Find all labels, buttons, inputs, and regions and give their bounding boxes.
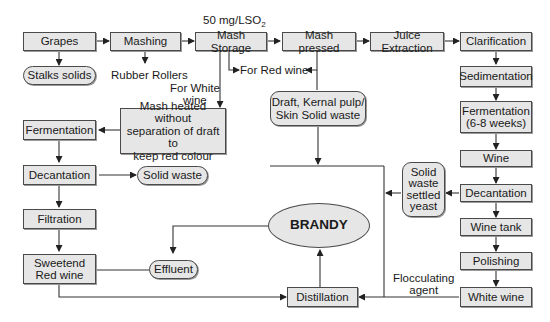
node-label: Mash Storage [196,29,266,54]
node-label: Filtration [37,213,81,226]
node-label: Fermentation [26,124,94,137]
node-solid-waste-yeast: Solidwastesettledyeast [402,162,445,217]
node-white-wine: White wine [460,287,532,307]
node-mashing: Mashing [110,32,181,51]
node-label: Solid waste [143,169,202,182]
node-label: Fermentation [462,105,530,118]
node-label: Mashing [124,35,167,48]
node-label: separation of draft to [121,125,225,150]
node-label: keep red colour [133,150,212,163]
node-decantation-red: Decantation [23,165,96,185]
node-polishing: Polishing [460,252,532,270]
so2-text: 50 mg/LSO [203,14,261,26]
node-label: (6-8 weeks) [466,117,526,130]
node-label: Decantation [465,187,526,200]
node-label: Mash pressed [283,29,355,54]
node-fermentation-red: Fermentation [23,120,96,140]
node-stalks-solids: Stalks solids [23,66,96,85]
node-label: Wine [483,152,509,165]
node-label: Polishing [473,255,520,268]
label-line: Flocculating [393,272,454,284]
node-label: Stalks solids [28,69,92,82]
node-label: Sedimentation [459,70,533,83]
label-for-red-wine: For Red wine [240,64,308,77]
node-mash-heated: Mash heated withoutseparation of draft t… [120,108,226,154]
label-flocculating-agent: Flocculatingagent [393,272,454,296]
node-label: Decantation [29,169,90,182]
node-label: Wine tank [470,221,521,234]
node-effluent: Effluent [149,260,198,279]
node-label: Clarification [466,35,526,48]
node-solid-waste: Solid waste [137,166,208,185]
label-line: agent [393,284,454,296]
node-sedimentation: Sedimentation [460,66,532,87]
node-wine-tank: Wine tank [460,218,532,236]
node-label: Grapes [41,35,79,48]
label-so2: 50 mg/LSO2 [203,14,266,32]
node-label: Effluent [154,263,193,276]
so2-subscript: 2 [261,20,265,29]
node-sweetend-red-wine: SweetendRed wine [23,254,96,284]
node-label: Red wine [36,269,84,282]
node-wine: Wine [460,150,532,167]
node-label: waste [408,178,438,190]
node-juice-extraction: Juice Extraction [370,32,444,51]
node-draft-kernal-pulp: Draft, Kernal pulp/Skin Solid waste [270,91,366,126]
label-line: For White [170,82,220,94]
node-label: BRANDY [290,219,348,232]
node-label: Sweetend [34,257,85,270]
brandy-production-flowchart: Grapes Mashing Mash Storage Mash pressed… [0,0,550,322]
node-mash-pressed: Mash pressed [282,32,356,51]
node-label: Mash heated without [121,100,225,125]
node-brandy: BRANDY [268,203,370,248]
node-label: Distillation [296,291,348,304]
label-rubber-rollers: Rubber Rollers [111,69,188,82]
node-label: yeast [410,201,438,213]
node-label: Juice Extraction [371,29,443,54]
node-label: Skin Solid waste [276,109,360,122]
node-filtration: Filtration [23,209,96,229]
node-mash-storage: Mash Storage [195,32,267,51]
node-fermentation-white: Fermentation(6-8 weeks) [460,101,532,133]
node-clarification: Clarification [460,32,532,51]
node-label: White wine [468,291,524,304]
node-grapes: Grapes [23,32,96,51]
node-distillation: Distillation [287,287,358,307]
node-label: Draft, Kernal pulp/ [272,96,365,109]
node-decantation-white: Decantation [460,184,532,202]
